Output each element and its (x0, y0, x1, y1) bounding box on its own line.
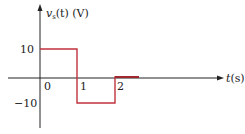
x-axis-arrow-icon (217, 76, 224, 81)
x-tick-2: 2 (117, 80, 124, 93)
y-axis-arrow-icon (38, 4, 43, 11)
y-tick-minus-10: −10 (14, 97, 37, 110)
y-tick-10: 10 (20, 43, 34, 56)
y-axis-label: vs(t) (V) (46, 7, 89, 21)
x-axis-label: t(s) (226, 72, 245, 85)
x-tick-1: 1 (80, 80, 87, 93)
x-tick-0: 0 (44, 80, 51, 93)
waveform-chart: vs(t) (V) t(s) 0 1 2 10 −10 (0, 0, 245, 134)
